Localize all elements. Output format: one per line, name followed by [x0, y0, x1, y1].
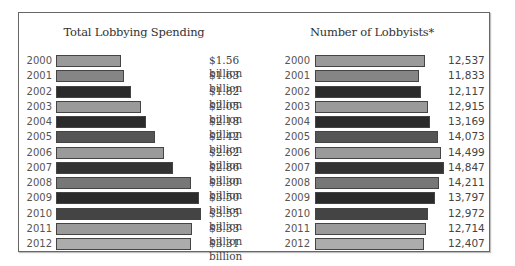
year-label: 2008: [255, 176, 310, 189]
data-bar: [56, 177, 191, 189]
year-label: 2002: [19, 85, 52, 98]
data-bar: [56, 192, 199, 204]
year-label: 2008: [19, 176, 52, 189]
data-bar: [56, 55, 121, 67]
right-bar-row: 200913,797: [255, 191, 491, 206]
right-bar-row: 200814,211: [255, 176, 491, 191]
left-bar-row: 2000$1.56 billion: [19, 54, 255, 69]
data-bar: [315, 177, 439, 189]
right-bar-row: 201212,407: [255, 237, 491, 252]
year-label: 2006: [255, 146, 310, 159]
right-bar-row: 200714,847: [255, 161, 491, 176]
data-bar: [56, 86, 131, 98]
lobbyists-chart-title: Number of Lobbyists*: [253, 25, 491, 39]
right-bar-row: 200614,499: [255, 146, 491, 161]
data-bar: [56, 101, 141, 113]
year-label: 2001: [19, 69, 52, 82]
left-bar-row: 2005$2.42 billion: [19, 130, 255, 145]
value-label: 14,499: [448, 146, 485, 159]
left-bar-row: 2001$1.63 billion: [19, 69, 255, 84]
data-bar: [56, 208, 201, 220]
year-label: 2000: [255, 54, 310, 67]
value-label: 14,211: [448, 176, 485, 189]
year-label: 2000: [19, 54, 52, 67]
data-bar: [56, 223, 192, 235]
chart-frame: Total Lobbying Spending 2000$1.56 billio…: [18, 12, 490, 252]
value-label: 13,169: [448, 115, 485, 128]
right-bar-row: 200012,537: [255, 54, 491, 69]
data-bar: [56, 147, 164, 159]
data-bar: [315, 116, 430, 128]
year-label: 2010: [19, 207, 52, 220]
right-bar-row: 201012,972: [255, 207, 491, 222]
year-label: 2005: [255, 130, 310, 143]
data-bar: [315, 131, 438, 143]
year-label: 2005: [19, 130, 52, 143]
year-label: 2003: [255, 100, 310, 113]
right-bar-row: 200212,117: [255, 85, 491, 100]
value-label: 12,915: [448, 100, 485, 113]
year-label: 2004: [255, 115, 310, 128]
spending-chart-title: Total Lobbying Spending: [13, 25, 255, 39]
right-bar-row: 200514,073: [255, 130, 491, 145]
data-bar: [56, 116, 146, 128]
data-bar: [315, 192, 435, 204]
value-label: 12,407: [448, 237, 485, 250]
value-label: 13,797: [448, 191, 485, 204]
left-bar-row: 2004$2.18 billion: [19, 115, 255, 130]
left-bar-row: 2003$2.05 billion: [19, 100, 255, 115]
left-bar-row: 2010$3.55 billion: [19, 207, 255, 222]
right-bar-row: 200312,915: [255, 100, 491, 115]
year-label: 2009: [255, 191, 310, 204]
data-bar: [315, 70, 419, 82]
data-bar: [315, 223, 426, 235]
right-bar-row: 200111,833: [255, 69, 491, 84]
spending-panel: Total Lobbying Spending 2000$1.56 billio…: [19, 13, 255, 251]
year-label: 2001: [255, 69, 310, 82]
year-label: 2007: [255, 161, 310, 174]
data-bar: [315, 162, 444, 174]
year-label: 2009: [19, 191, 52, 204]
data-bar: [56, 238, 191, 250]
left-bar-row: 2011$3.33 billion: [19, 222, 255, 237]
year-label: 2012: [19, 237, 52, 250]
left-bar-row: 2008$3.30 billion: [19, 176, 255, 191]
year-label: 2007: [19, 161, 52, 174]
data-bar: [315, 55, 425, 67]
value-label: 12,117: [448, 85, 485, 98]
value-label: $3.31 billion: [209, 237, 255, 263]
value-label: 12,714: [448, 222, 485, 235]
value-label: 14,073: [448, 130, 485, 143]
data-bar: [315, 147, 441, 159]
value-label: 14,847: [448, 161, 485, 174]
data-bar: [315, 208, 428, 220]
year-label: 2002: [255, 85, 310, 98]
value-label: 11,833: [448, 69, 485, 82]
right-bar-row: 200413,169: [255, 115, 491, 130]
year-label: 2011: [255, 222, 310, 235]
left-bar-row: 2009$3.50 billion: [19, 191, 255, 206]
left-bar-row: 2012$3.31 billion: [19, 237, 255, 252]
data-bar: [56, 131, 155, 143]
value-label: 12,972: [448, 207, 485, 220]
lobbyists-panel: Number of Lobbyists* 200012,537200111,83…: [255, 13, 491, 251]
year-label: 2003: [19, 100, 52, 113]
year-label: 2011: [19, 222, 52, 235]
left-bar-row: 2006$2.62 billion: [19, 146, 255, 161]
left-bar-row: 2002$1.82 billion: [19, 85, 255, 100]
data-bar: [56, 162, 173, 174]
year-label: 2010: [255, 207, 310, 220]
left-bar-row: 2007$2.86 billion: [19, 161, 255, 176]
year-label: 2004: [19, 115, 52, 128]
data-bar: [315, 238, 424, 250]
data-bar: [56, 70, 124, 82]
data-bar: [315, 101, 428, 113]
value-label: 12,537: [448, 54, 485, 67]
right-bar-row: 201112,714: [255, 222, 491, 237]
data-bar: [315, 86, 421, 98]
year-label: 2012: [255, 237, 310, 250]
year-label: 2006: [19, 146, 52, 159]
